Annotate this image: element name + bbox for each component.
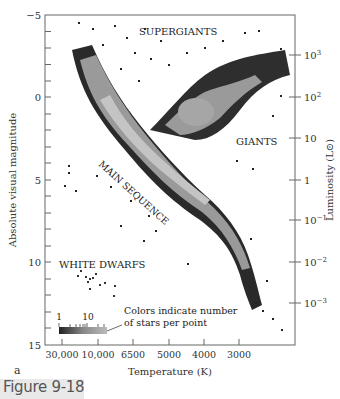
svg-text:102: 102	[304, 91, 321, 103]
x-axis-title: Temperature (K)	[128, 366, 212, 377]
svg-text:10−3: 10−3	[304, 297, 327, 309]
svg-text:Colors indicate number: Colors indicate number	[124, 305, 238, 316]
svg-text:15: 15	[28, 340, 41, 351]
white-dwarf-points	[77, 270, 116, 297]
label-supergiants: SUPERGIANTS	[139, 26, 217, 37]
svg-text:103: 103	[304, 49, 321, 61]
svg-text:−5: −5	[26, 10, 41, 21]
svg-text:of stars per point: of stars per point	[124, 317, 207, 328]
colorbar-legend: 1 10 Colors indicate number of stars per…	[56, 305, 238, 334]
svg-text:6500: 6500	[121, 349, 145, 360]
svg-text:10−2: 10−2	[304, 256, 327, 268]
figure-caption: Figure 9-18	[3, 378, 84, 396]
label-white-dwarfs: WHITE DWARFS	[59, 259, 146, 270]
hr-diagram-chart: −5 0 5 10 15 103 102 10 1 10−1 10−2 10−3…	[0, 0, 340, 399]
svg-text:10: 10	[82, 312, 94, 322]
svg-text:1: 1	[56, 312, 62, 322]
svg-text:0: 0	[35, 92, 41, 103]
bottom-axis-ticks	[62, 339, 239, 345]
star-density	[72, 45, 290, 310]
svg-text:4000: 4000	[192, 349, 216, 360]
bottom-tick-labels: 30,000 10,000 6500 5000 4000 3000	[45, 349, 251, 360]
svg-text:10: 10	[304, 133, 317, 144]
label-giants: GIANTS	[236, 136, 278, 147]
svg-text:10,000: 10,000	[81, 349, 114, 360]
left-axis-ticks	[45, 32, 51, 329]
svg-text:5000: 5000	[157, 349, 181, 360]
svg-text:3000: 3000	[227, 349, 251, 360]
svg-text:5: 5	[35, 175, 41, 186]
left-tick-labels: −5 0 5 10 15	[26, 10, 41, 351]
svg-text:30,000: 30,000	[45, 349, 78, 360]
y2-axis-title: Luminosity (L⊙)	[324, 139, 335, 221]
svg-text:10: 10	[28, 257, 41, 268]
y-axis-title: Absolute visual magnitude	[7, 113, 18, 249]
svg-text:1: 1	[304, 175, 310, 186]
panel-letter: a	[14, 364, 21, 377]
